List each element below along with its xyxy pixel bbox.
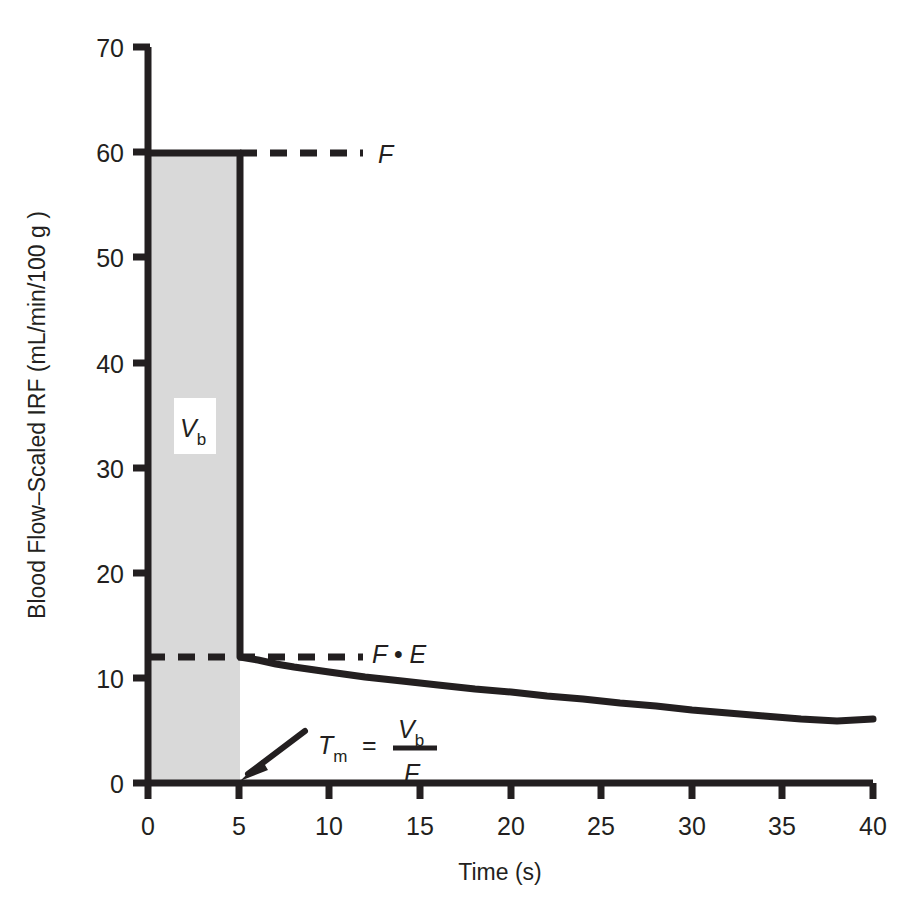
equation-equals-sign: = bbox=[362, 731, 377, 759]
tm-subscript: m bbox=[333, 747, 347, 766]
x-tick-label-0: 0 bbox=[141, 812, 155, 840]
x-tick-label-25: 25 bbox=[587, 812, 615, 840]
annotation-f-label: F bbox=[378, 140, 395, 168]
y-tick-label-20: 20 bbox=[96, 560, 124, 588]
irf-chart: 70 60 50 40 30 20 10 0 0 5 10 15 20 25 3… bbox=[0, 0, 910, 909]
x-axis-title: Time (s) bbox=[458, 859, 541, 885]
equation-denominator: F bbox=[404, 759, 421, 787]
mean-transit-time-arrow bbox=[240, 731, 305, 781]
y-tick-label-0: 0 bbox=[110, 770, 124, 798]
figure-container: 70 60 50 40 30 20 10 0 0 5 10 15 20 25 3… bbox=[0, 0, 910, 909]
y-tick-label-70: 70 bbox=[96, 34, 124, 62]
y-tick-label-30: 30 bbox=[96, 455, 124, 483]
annotation-f-dot-e-label: F • E bbox=[372, 640, 426, 668]
x-tick-label-30: 30 bbox=[678, 812, 706, 840]
y-axis-title: Blood Flow–Scaled IRF (mL/min/100 g ) bbox=[24, 211, 50, 619]
equation-numerator: Vb bbox=[398, 715, 424, 750]
shaded-region-vb bbox=[148, 153, 240, 783]
equation-left-side: Tm bbox=[318, 731, 347, 766]
x-tick-label-35: 35 bbox=[768, 812, 796, 840]
x-tick-label-5: 5 bbox=[232, 812, 246, 840]
x-tick-label-40: 40 bbox=[859, 812, 887, 840]
y-tick-label-50: 50 bbox=[96, 244, 124, 272]
irf-curve bbox=[148, 153, 873, 721]
x-tick-label-15: 15 bbox=[406, 812, 434, 840]
x-tick-label-10: 10 bbox=[315, 812, 343, 840]
mean-transit-time-equation: Tm = Vb F bbox=[318, 715, 437, 787]
y-tick-label-40: 40 bbox=[96, 350, 124, 378]
y-tick-label-60: 60 bbox=[96, 139, 124, 167]
x-tick-label-20: 20 bbox=[497, 812, 525, 840]
y-tick-label-10: 10 bbox=[96, 665, 124, 693]
vb-label-subscript: b bbox=[197, 430, 206, 449]
